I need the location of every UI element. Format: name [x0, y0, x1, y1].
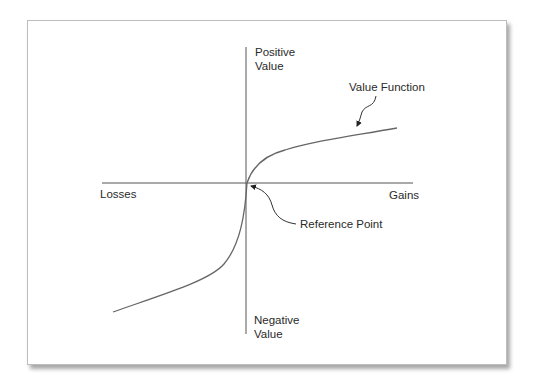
negative-value-label-line2: Value	[254, 327, 314, 341]
value-function-arrow	[357, 96, 376, 126]
reference-point-label: Reference Point	[300, 217, 382, 231]
negative-value-label-line1: Negative	[254, 313, 314, 327]
reference-point-arrow	[251, 186, 296, 224]
value-function-label: Value Function	[349, 80, 425, 94]
positive-value-label-line1: Positive	[255, 45, 315, 59]
negative-value-label: Negative Value	[254, 313, 314, 341]
positive-value-label: Positive Value	[255, 45, 315, 73]
positive-value-label-line2: Value	[255, 59, 315, 73]
gains-label: Gains	[389, 188, 419, 202]
value-curve-gains	[247, 128, 397, 183]
value-curve-losses	[113, 183, 247, 312]
losses-label: Losses	[100, 187, 136, 201]
